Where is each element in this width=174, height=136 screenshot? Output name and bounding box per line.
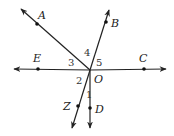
angle-label-5: 5: [96, 57, 102, 68]
angle-label-4: 4: [84, 47, 90, 58]
ray-oe: [14, 69, 90, 70]
angle-label-1: 1: [86, 89, 92, 100]
point-label-b: B: [110, 17, 119, 30]
point-a: [35, 22, 39, 26]
point-e: [36, 67, 40, 71]
point-label-c: C: [139, 52, 148, 65]
point-c: [142, 67, 146, 71]
ray-oc: [90, 69, 166, 70]
point-label-d: D: [94, 103, 104, 116]
point-label-a: A: [37, 9, 46, 22]
point-b: [104, 20, 108, 24]
geometry-diagram: ABCEZD12345O: [0, 0, 174, 136]
point-label-e: E: [32, 52, 41, 65]
angle-label-2: 2: [76, 75, 82, 86]
ray-oa: [21, 9, 90, 70]
point-z: [76, 104, 80, 108]
point-d: [88, 106, 92, 110]
angle-label-3: 3: [68, 57, 74, 68]
labels: ABCEZD12345O: [32, 9, 148, 116]
center-label-o: O: [94, 73, 103, 86]
point-label-z: Z: [62, 100, 71, 113]
